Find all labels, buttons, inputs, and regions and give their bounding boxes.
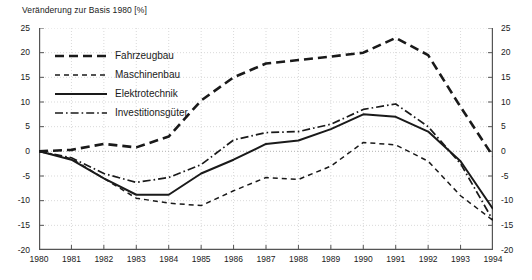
series-line-elektrotechnik [39,114,493,209]
y-axis-tick-label-left: -5 [22,172,30,181]
y-axis-tick-label-left: 10 [21,98,30,107]
legend-label: Elektrotechnik [115,88,178,99]
y-axis-left-labels: 2520151050-5-10-15-20 [0,28,34,250]
y-axis-tick-label-left: -15 [18,221,30,230]
legend-line-short-dash-icon [55,69,107,81]
legend-item-maschinenbau: Maschinenbau [55,65,235,84]
x-axis-tick-label: 1988 [289,255,308,264]
legend-label: Investitionsgüter [115,107,188,118]
legend-item-fahrzeugbau: Fahrzeugbau [55,46,235,65]
x-axis-tick-label: 1987 [257,255,276,264]
x-axis-tick-label: 1993 [451,255,470,264]
y-axis-tick-label-right: 15 [501,73,510,82]
y-axis-tick-label-right: 10 [501,98,510,107]
y-axis-tick-label-left: -20 [18,246,30,255]
y-axis-tick-label-right: 25 [501,24,510,33]
y-axis-tick-label-left: 0 [25,147,30,156]
x-axis-tick-label: 1984 [159,255,178,264]
legend-line-solid-icon [55,88,107,100]
y-axis-tick-label-right: 0 [501,147,506,156]
y-axis-right-labels: 2520151050-5-10-15-20 [497,28,531,250]
legend-line-long-dash-icon [55,50,107,62]
x-axis-tick-label: 1985 [192,255,211,264]
y-axis-tick-label-right: -10 [501,196,513,205]
legend-label: Maschinenbau [115,69,180,80]
x-axis-tick-label: 1981 [62,255,81,264]
x-axis-tick-label: 1989 [321,255,340,264]
x-axis-tick-label: 1991 [386,255,405,264]
y-axis-tick-label-right: -5 [501,172,509,181]
x-axis-tick-label: 1992 [419,255,438,264]
legend-label: Fahrzeugbau [115,50,174,61]
legend-line-dash-dot-icon [55,107,107,119]
y-axis-tick-label-left: -10 [18,196,30,205]
x-axis-tick-label: 1982 [94,255,113,264]
legend-item-elektrotechnik: Elektrotechnik [55,84,235,103]
chart-container: Veränderung zur Basis 1980 [%] 252015105… [0,0,532,280]
x-axis-tick-label: 1994 [484,255,503,264]
chart-legend: FahrzeugbauMaschinenbauElektrotechnikInv… [55,46,235,122]
x-axis-tick-label: 1980 [30,255,49,264]
x-axis-tick-label: 1986 [224,255,243,264]
y-axis-tick-label-right: 20 [501,48,510,57]
x-axis-labels: 1980198119821983198419851986198719881989… [0,255,532,269]
y-axis-tick-label-left: 15 [21,73,30,82]
chart-axis-title: Veränderung zur Basis 1980 [%] [22,5,147,15]
legend-item-investitionsg-ter: Investitionsgüter [55,103,235,122]
y-axis-tick-label-left: 25 [21,24,30,33]
y-axis-tick-label-right: 5 [501,122,506,131]
y-axis-tick-label-right: -15 [501,221,513,230]
y-axis-tick-label-left: 20 [21,48,30,57]
y-axis-tick-label-right: -20 [501,246,513,255]
x-axis-tick-label: 1983 [127,255,146,264]
y-axis-tick-label-left: 5 [25,122,30,131]
x-axis-tick-label: 1990 [354,255,373,264]
